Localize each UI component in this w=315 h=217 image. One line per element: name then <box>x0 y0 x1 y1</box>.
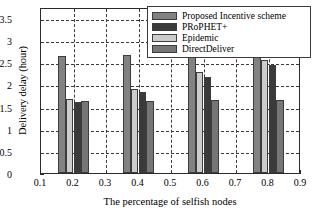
bar <box>58 56 66 173</box>
y-tick-label: 3 <box>0 36 12 47</box>
legend: Proposed Incentive scheme PRoPHET+ Epide… <box>147 6 311 58</box>
bar <box>253 56 261 173</box>
bar <box>261 60 269 173</box>
bar <box>139 92 147 173</box>
bar <box>196 72 204 173</box>
y-axis-title: Delivery delay (hour) <box>17 21 28 161</box>
x-tick-label: 0.9 <box>280 177 315 188</box>
x-tick-mark <box>300 170 301 174</box>
y-tick-label: 0 <box>0 169 12 180</box>
y-tick-label: 2 <box>0 80 12 91</box>
y-tick-label: 0.5 <box>0 146 12 157</box>
legend-item: Proposed Incentive scheme <box>152 10 306 21</box>
bar <box>131 89 139 173</box>
bar <box>188 56 196 173</box>
legend-swatch-proposed-incentive-scheme <box>152 12 177 20</box>
bar <box>81 101 89 173</box>
bar <box>211 100 219 173</box>
gridline-vertical <box>106 9 107 173</box>
legend-label: Epidemic <box>182 33 218 43</box>
legend-item: Epidemic <box>152 32 306 43</box>
bar <box>123 55 131 173</box>
legend-item: DirectDeliver <box>152 43 306 54</box>
bar <box>276 100 284 173</box>
y-tick-label: 2.5 <box>0 58 12 69</box>
y-tick-label: 1.5 <box>0 102 12 113</box>
legend-label: PRoPHET+ <box>182 22 227 32</box>
bar <box>204 77 212 174</box>
bar <box>269 65 277 173</box>
y-tick-mark <box>40 174 44 175</box>
legend-label: DirectDeliver <box>182 44 234 54</box>
legend-item: PRoPHET+ <box>152 21 306 32</box>
legend-label: Proposed Incentive scheme <box>182 11 286 21</box>
bar-chart-figure: Delivery delay (hour) 00.511.522.533.5 0… <box>0 0 315 217</box>
bar <box>74 102 82 173</box>
legend-swatch-epidemic <box>152 34 177 42</box>
y-tick-label: 1 <box>0 124 12 135</box>
y-tick-label: 3.5 <box>0 14 12 25</box>
bar <box>146 101 154 173</box>
legend-swatch-prophet-plus <box>152 23 177 31</box>
legend-swatch-directdeliver <box>152 45 177 53</box>
bar <box>66 99 74 173</box>
x-axis-title: The percentage of selfish nodes <box>40 196 300 207</box>
